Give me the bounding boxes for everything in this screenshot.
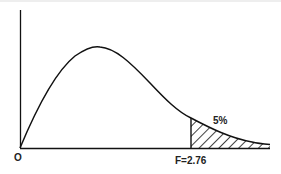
critical-value-label: F=2.76	[175, 156, 206, 166]
tail-area-label: 5%	[213, 116, 227, 126]
density-curve	[20, 47, 270, 148]
f-distribution-diagram	[0, 0, 281, 174]
origin-label: O	[14, 153, 22, 163]
